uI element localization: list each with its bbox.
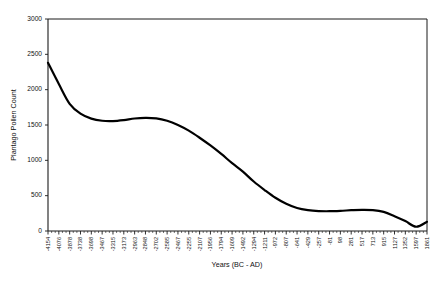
y-tick-label: 0	[38, 227, 42, 234]
x-tick-label: -2467	[175, 237, 181, 251]
x-tick-label: -1211	[262, 237, 268, 251]
x-tick-label: -81	[327, 237, 333, 245]
x-tick-label: -4154	[45, 237, 51, 251]
y-tick-label: 1500	[27, 121, 42, 128]
pollen-line-chart: 050010001500200025003000 -4154-4076-3878…	[0, 0, 445, 282]
x-tick-label: 1127	[392, 237, 398, 249]
chart-figure: 050010001500200025003000 -4154-4076-3878…	[0, 0, 445, 282]
x-tick-label: -1609	[229, 237, 235, 251]
x-tick-label: -807	[283, 237, 289, 248]
x-tick-label: -3738	[77, 237, 83, 251]
x-tick-label: -3878	[67, 237, 73, 251]
x-tick-label: 1352	[402, 237, 408, 249]
pollen-count-series	[48, 63, 427, 227]
x-tick-label: -4076	[56, 237, 62, 251]
y-tick-label: 500	[31, 191, 42, 198]
x-tick-label: -2255	[186, 237, 192, 251]
x-axis-title: Years (BC - AD)	[212, 260, 263, 269]
y-axis-title: Plantago Pollen Count	[9, 89, 18, 161]
x-tick-label: 1861	[424, 237, 430, 249]
x-tick-label: -641	[294, 237, 300, 248]
x-tick-label: 713	[370, 237, 376, 246]
x-tick-label: 517	[359, 237, 365, 246]
plot-frame	[48, 19, 427, 231]
x-axis: -4154-4076-3878-3738-3698-3467-3315-3173…	[45, 231, 430, 251]
y-tick-label: 2500	[27, 50, 42, 57]
x-tick-label: -429	[305, 237, 311, 248]
x-tick-label: -3315	[110, 237, 116, 251]
x-tick-label: -1956	[207, 237, 213, 251]
x-tick-label: -2107	[197, 237, 203, 251]
y-tick-label: 3000	[27, 15, 42, 22]
y-tick-label: 1000	[27, 156, 42, 163]
x-tick-label: 915	[381, 237, 387, 246]
x-tick-label: -2585	[164, 237, 170, 251]
x-tick-label: -972	[272, 237, 278, 248]
x-tick-label: -3467	[99, 237, 105, 251]
x-tick-label: -1794	[218, 237, 224, 251]
x-tick-label: -257	[316, 237, 322, 248]
x-tick-label: -2963	[132, 237, 138, 251]
x-tick-label: 281	[348, 237, 354, 246]
x-tick-label: 98	[337, 237, 343, 243]
y-axis: 050010001500200025003000	[27, 15, 48, 234]
x-tick-label: 1597	[413, 237, 419, 249]
x-tick-label: -2702	[153, 237, 159, 251]
x-tick-label: -3173	[121, 237, 127, 251]
y-tick-label: 2000	[27, 85, 42, 92]
x-tick-label: -3698	[88, 237, 94, 251]
x-tick-label: -1492	[240, 237, 246, 251]
x-tick-label: -1294	[251, 237, 257, 251]
x-tick-label: -2848	[142, 237, 148, 251]
